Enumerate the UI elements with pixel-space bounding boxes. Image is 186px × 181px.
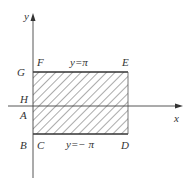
y-axis-arrow-icon <box>31 13 36 21</box>
hatched-region <box>33 72 128 134</box>
label-F: F <box>36 56 44 68</box>
y-axis-label: y <box>23 10 29 22</box>
label-G: G <box>17 66 25 78</box>
label-D: D <box>120 139 129 151</box>
label-y-pi: y=π <box>69 56 88 68</box>
label-H: H <box>19 93 29 105</box>
label-C: C <box>37 139 45 151</box>
diagram-canvas: y x G F y=π E H A B C y=− π D <box>0 0 186 181</box>
x-axis-arrow-icon <box>175 104 183 109</box>
label-B: B <box>20 139 27 151</box>
label-E: E <box>121 56 129 68</box>
label-A: A <box>19 109 27 121</box>
label-y-neg-pi: y=− π <box>65 138 94 150</box>
x-axis-label: x <box>173 112 179 124</box>
